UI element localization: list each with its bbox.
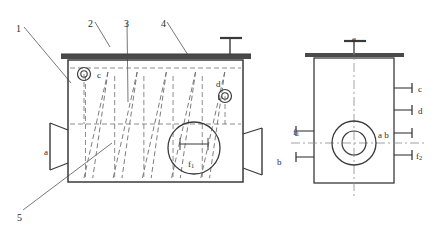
- front-flange-b-taper-bottom: [243, 168, 262, 175]
- side-top-nozzle-label-e: e: [352, 35, 356, 44]
- part-callout-3: 3: [124, 19, 129, 29]
- coil-turn-down-1: [122, 72, 137, 178]
- side-left-nozzle-label-f1: f1: [293, 128, 299, 138]
- leader-line-2: [95, 22, 110, 47]
- front-top-plate: [61, 54, 251, 59]
- leader-line-3: [127, 22, 128, 102]
- front-detail-label-f1: f1: [188, 160, 194, 170]
- side-right-nozzle-label-f2: f2: [416, 152, 422, 162]
- front-flange-label-a: a: [44, 148, 48, 157]
- part-callout-5: 5: [17, 213, 22, 223]
- side-view-group: [291, 41, 424, 196]
- front-flange-a-taper-top: [50, 123, 68, 130]
- coil-turn-up-2: [142, 72, 166, 178]
- side-right-nozzle-label-c: c: [418, 85, 422, 94]
- coil-turn-up-4: [201, 72, 225, 178]
- part-callout-2: 2: [88, 19, 93, 29]
- part-callout-4: 4: [161, 19, 166, 29]
- coil-turn-up-1: [113, 72, 137, 178]
- front-flange-b-taper-top: [243, 128, 262, 134]
- side-center-circle-label-ab: a b: [378, 131, 389, 140]
- front-nozzle-label-d: d: [216, 80, 221, 89]
- part-callout-1: 1: [16, 24, 21, 34]
- front-nozzle-label-c: c: [97, 71, 101, 80]
- side-right-nozzle-label-d: d: [418, 107, 423, 116]
- engineering-drawing-canvas: [0, 0, 444, 229]
- coil-turn-up-0: [84, 72, 108, 178]
- side-top-plate: [305, 53, 404, 57]
- front-view-group: [50, 38, 262, 182]
- front-flange-label-b: b: [277, 158, 282, 167]
- coil-turn-down-2: [151, 72, 166, 178]
- leader-line-4: [167, 22, 188, 55]
- front-flange-a-taper-bottom: [50, 163, 68, 170]
- coil-turn-down-0: [93, 72, 108, 178]
